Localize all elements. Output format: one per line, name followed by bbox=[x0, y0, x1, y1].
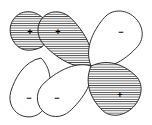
orbital-diagram: ++−−−+ bbox=[0, 0, 152, 125]
lobe-lower-middle-sign-label: − bbox=[54, 93, 59, 103]
lobe-lower-right-sign-label: + bbox=[117, 90, 122, 100]
lobe-upper-right-sign-label: − bbox=[118, 27, 123, 37]
lobe-upper-middle-sign-label: + bbox=[55, 27, 60, 37]
orbital-diagram-canvas: ++−−−+ bbox=[0, 0, 152, 125]
lobe-upper-left-sign-label: + bbox=[27, 27, 32, 37]
lobe-lower-left-sign-label: − bbox=[26, 93, 31, 103]
